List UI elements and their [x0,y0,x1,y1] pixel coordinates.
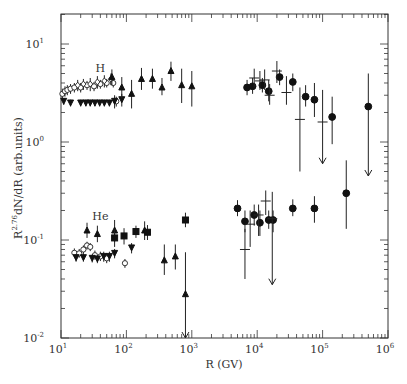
plot-frame [61,14,388,338]
data-points [60,61,372,338]
y-axis-tick-labels: 10-210-1100101 [23,37,44,345]
x-axis-tick-labels: 101102103104105106 [49,342,395,356]
x-tick-label: 101 [49,342,67,356]
x-tick-label: 102 [114,342,132,356]
y-axis-ticks [61,14,388,338]
cosmic-ray-spectrum-chart: 101102103104105106 10-210-1100101 R (GV)… [0,0,407,384]
x-axis-label: R (GV) [205,358,242,371]
y-tick-label: 100 [26,135,44,149]
x-tick-label: 103 [180,342,198,356]
series-cross [240,190,277,284]
series-down-triangle [61,94,125,109]
y-tick-label: 101 [26,37,44,51]
y-tick-label: 10-2 [23,331,44,345]
y-tick-label: 10-1 [23,233,44,247]
x-tick-label: 105 [310,342,328,356]
y-axis-label: R2.76dN/dR (arb.units) [11,117,25,239]
x-axis-ticks [61,14,388,338]
x-tick-label: 106 [376,342,395,356]
x-tick-label: 104 [245,342,264,356]
series-filled-circle [244,69,372,176]
upper-limit-arrows [182,158,372,338]
series-square [112,213,189,247]
series-label: H [96,62,106,75]
series-label: He [92,210,108,223]
series-cross [249,61,327,171]
